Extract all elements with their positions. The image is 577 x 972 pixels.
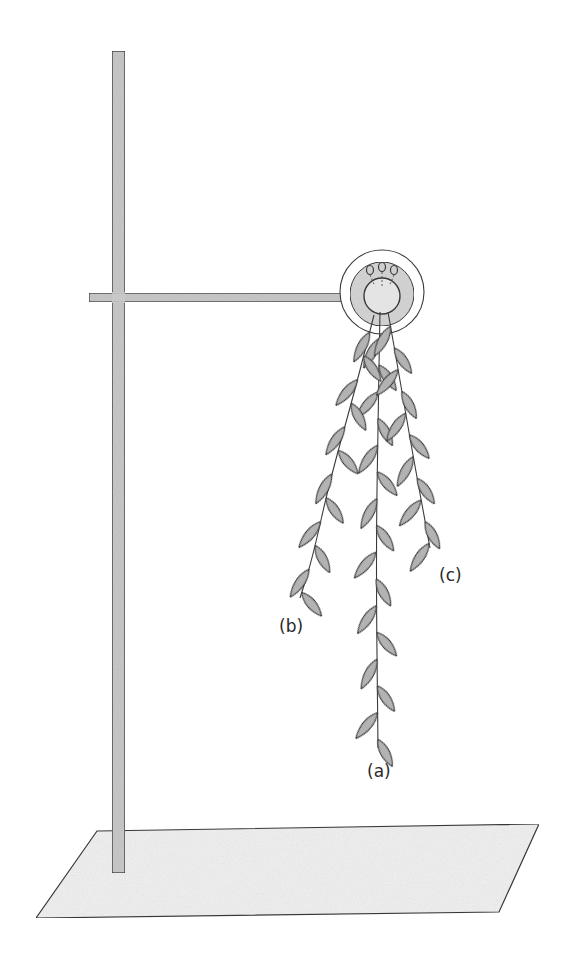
- leaf: [352, 710, 381, 742]
- label-shoot-c: (c): [439, 567, 462, 584]
- stem-b: [300, 315, 374, 598]
- leaf: [332, 377, 361, 409]
- leaf: [322, 495, 347, 526]
- diagram: (a) (b) (c): [0, 0, 577, 972]
- clamp-arm: [89, 292, 347, 303]
- leaf: [374, 469, 401, 499]
- leaf: [406, 541, 432, 574]
- leaf: [372, 577, 395, 609]
- clamp-disc: [340, 250, 424, 334]
- leaf: [396, 497, 425, 529]
- leaf: [351, 549, 380, 581]
- leaf: [311, 543, 334, 575]
- leaf: [286, 567, 312, 600]
- leaf: [298, 590, 325, 620]
- leaf: [406, 432, 433, 462]
- hanging-shoots: [286, 312, 443, 769]
- label-shoot-a: (a): [367, 763, 391, 780]
- leaf: [393, 454, 417, 488]
- leaf: [295, 519, 324, 551]
- label-shoot-b: (b): [279, 618, 303, 635]
- stand-pole: [112, 51, 125, 873]
- leaf: [335, 447, 362, 477]
- plant-stand-illustration: [0, 0, 577, 972]
